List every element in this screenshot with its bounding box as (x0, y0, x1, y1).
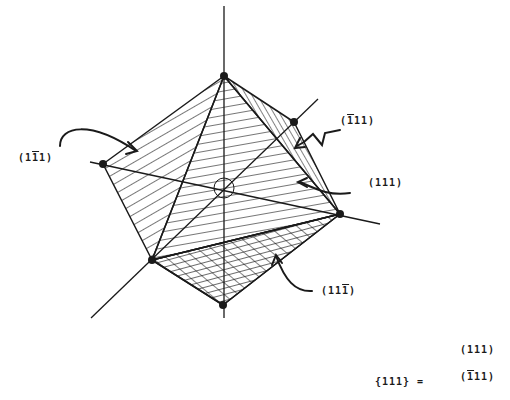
label-part: 11) (354, 115, 375, 126)
face-label-upper-right: (111) (340, 115, 375, 126)
face-label-right: (111) (368, 177, 403, 188)
face-label-bottom: (111) (321, 285, 356, 296)
label-part: ) (349, 285, 356, 296)
label-bar-digit: 1 (467, 371, 474, 382)
equation-term: (111) (460, 344, 495, 355)
equation-row-2: (111) (460, 371, 495, 382)
vertex-bottom (219, 301, 227, 309)
vertex-bottom-left (148, 256, 156, 264)
label-part: (1 (18, 152, 32, 163)
vertex-right (336, 210, 344, 218)
vertex-top (220, 72, 228, 80)
vertex-left (99, 160, 107, 168)
label-part: ( (460, 371, 467, 382)
equation-row-1: (111) (460, 344, 495, 355)
face-label-left: (111) (18, 152, 53, 163)
faces (103, 76, 340, 305)
octahedron-figure (0, 0, 510, 400)
equation-lhs: {111} = (375, 376, 424, 387)
label-bar-digit: 1 (347, 115, 354, 126)
label-part: 11) (474, 371, 495, 382)
label-part: ( (340, 115, 347, 126)
label-part: 1) (39, 152, 53, 163)
label-part: (11 (321, 285, 342, 296)
vertex-upper-right (290, 118, 298, 126)
